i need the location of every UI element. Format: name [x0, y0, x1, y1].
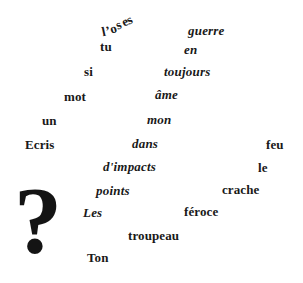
- poem-word-crache: crache: [222, 183, 259, 196]
- poem-word-féroce: féroce: [184, 205, 218, 218]
- poem-word-points: points: [96, 184, 130, 197]
- calligram-canvas: ? l’oses tuguerreensitoujoursmotâmeunmon…: [0, 0, 303, 283]
- poem-word-les: Les: [83, 206, 102, 219]
- poem-word-ecris: Ecris: [25, 138, 54, 151]
- poem-word-un: un: [42, 114, 57, 127]
- poem-word-dans: dans: [132, 137, 158, 150]
- poem-word-tu: tu: [100, 40, 112, 53]
- poem-word-troupeau: troupeau: [128, 229, 179, 242]
- poem-word-feu: feu: [266, 138, 284, 151]
- poem-word-mot: mot: [64, 90, 86, 103]
- poem-word-si: si: [84, 65, 93, 78]
- poem-word-le: le: [258, 161, 268, 174]
- poem-word-mon: mon: [147, 113, 171, 126]
- poem-word-âme: âme: [155, 88, 178, 101]
- arc-word-loses: l’oses: [102, 14, 132, 30]
- poem-word-guerre: guerre: [188, 24, 225, 37]
- poem-word-en: en: [184, 43, 197, 56]
- poem-word-toujours: toujours: [164, 65, 210, 78]
- question-mark-glyph: ?: [14, 173, 62, 269]
- poem-word-ton: Ton: [87, 251, 109, 264]
- poem-word-dimpacts: d'impacts: [103, 160, 156, 173]
